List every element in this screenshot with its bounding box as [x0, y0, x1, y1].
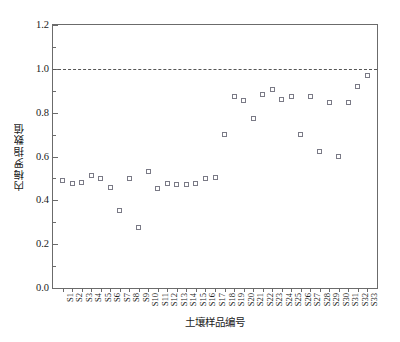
x-axis-tick [91, 288, 92, 292]
data-point [346, 100, 351, 105]
data-point [193, 181, 198, 186]
data-points-layer [53, 25, 377, 288]
x-axis-tick [272, 288, 273, 292]
x-axis-tick-label: S5 [104, 293, 113, 302]
y-axis-tick-label: 0.4 [36, 195, 49, 206]
x-axis-tick-label: S18 [228, 293, 237, 306]
data-point [213, 175, 218, 180]
x-axis-tick [129, 288, 130, 292]
y-axis-tick-label: 0.6 [36, 151, 49, 162]
x-axis-tick-label: S8 [132, 293, 141, 302]
x-axis-tick [196, 288, 197, 292]
x-axis-tick-label: S3 [85, 293, 94, 302]
x-axis-tick-label: S26 [304, 293, 313, 306]
data-point [241, 98, 246, 103]
x-axis-tick [320, 288, 321, 292]
x-axis-tick [358, 288, 359, 292]
x-axis-tick [329, 288, 330, 292]
x-axis-tick-label: S20 [247, 293, 256, 306]
x-axis-tick-label: S14 [189, 293, 198, 306]
x-axis-tick-label: S10 [151, 293, 160, 306]
data-point [146, 169, 151, 174]
data-point [365, 73, 370, 78]
y-axis-tick-label: 1.2 [36, 20, 49, 31]
x-axis-tick-label: S7 [123, 293, 132, 302]
data-point [79, 180, 84, 185]
x-axis-tick-label: S17 [218, 293, 227, 306]
data-point [355, 84, 360, 89]
x-axis-tick [244, 288, 245, 292]
x-axis-tick [310, 288, 311, 292]
x-axis-tick [167, 288, 168, 292]
y-axis-tick-major [53, 288, 58, 289]
x-axis-tick [215, 288, 216, 292]
data-point [251, 116, 256, 121]
x-axis-tick [101, 288, 102, 292]
data-point [108, 185, 113, 190]
y-axis-title-text: 内梅罗指数值 [12, 122, 27, 191]
x-axis-tick-label: S33 [370, 293, 379, 306]
data-point [232, 94, 237, 99]
data-point [279, 97, 284, 102]
x-axis-tick [253, 288, 254, 292]
x-axis-tick-label: S9 [142, 293, 151, 302]
x-axis-tick [72, 288, 73, 292]
chart-figure: 内梅罗指数值 0.00.20.40.60.81.01.2 S1S2S3S4S5S… [0, 0, 400, 342]
plot-area: 0.00.20.40.60.81.01.2 S1S2S3S4S5S6S7S8S9… [52, 24, 378, 289]
x-axis-tick [282, 288, 283, 292]
data-point [308, 94, 313, 99]
data-point [70, 181, 75, 186]
x-axis-tick [186, 288, 187, 292]
threshold-line-annotation [53, 69, 377, 70]
x-axis-title: 土壤样品编号 [52, 318, 378, 329]
x-axis-tick [139, 288, 140, 292]
data-point [60, 178, 65, 183]
x-axis-tick-label: S23 [275, 293, 284, 306]
data-point [155, 186, 160, 191]
x-axis-tick [82, 288, 83, 292]
x-axis-tick [339, 288, 340, 292]
data-point [203, 176, 208, 181]
data-point [117, 208, 122, 213]
x-axis-tick-label: S31 [351, 293, 360, 306]
x-axis-tick [367, 288, 368, 292]
data-point [222, 132, 227, 137]
x-axis-tick [263, 288, 264, 292]
x-axis-tick-label: S19 [237, 293, 246, 306]
x-axis-tick [205, 288, 206, 292]
x-axis-tick [110, 288, 111, 292]
x-axis-tick-label: S24 [285, 293, 294, 306]
x-axis-tick-label: S12 [170, 293, 179, 306]
x-axis-tick-label: S22 [266, 293, 275, 306]
data-point [298, 132, 303, 137]
x-axis-tick [348, 288, 349, 292]
x-axis-tick [120, 288, 121, 292]
x-axis-tick-label: S6 [113, 293, 122, 302]
x-axis-tick [148, 288, 149, 292]
data-point [136, 225, 141, 230]
data-point [260, 92, 265, 97]
x-axis-tick-label: S4 [94, 293, 103, 302]
data-point [165, 181, 170, 186]
data-point [289, 94, 294, 99]
x-axis-tick-label: S27 [313, 293, 322, 306]
data-point [327, 100, 332, 105]
x-axis-tick-label: S29 [332, 293, 341, 306]
x-axis-tick-label: S21 [256, 293, 265, 306]
x-axis-tick [225, 288, 226, 292]
data-point [174, 182, 179, 187]
y-axis-tick-label: 0.2 [36, 239, 49, 250]
data-point [98, 176, 103, 181]
x-axis-tick-label: S25 [294, 293, 303, 306]
x-axis-tick-label: S2 [75, 293, 84, 302]
x-axis-tick-label: S16 [208, 293, 217, 306]
y-axis-tick-label: 0.8 [36, 107, 49, 118]
data-point [336, 154, 341, 159]
data-point [184, 182, 189, 187]
x-axis-tick [158, 288, 159, 292]
x-axis-tick [291, 288, 292, 292]
x-axis-tick-label: S1 [66, 293, 75, 302]
data-point [317, 149, 322, 154]
x-axis-tick [301, 288, 302, 292]
data-point [89, 173, 94, 178]
